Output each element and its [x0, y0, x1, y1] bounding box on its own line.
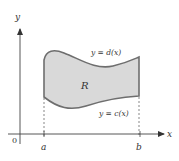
x-axis-label: x	[167, 129, 172, 139]
region-r	[44, 51, 139, 109]
lower-curve-label: y = c(x)	[98, 109, 129, 118]
region-diagram: y x 0 a b R y = d(x) y = c(x)	[0, 0, 179, 161]
region-label: R	[80, 80, 89, 91]
b-label: b	[136, 142, 142, 152]
upper-curve-label: y = d(x)	[90, 48, 121, 57]
origin-label: 0	[12, 136, 17, 145]
a-label: a	[41, 142, 46, 152]
y-axis-label: y	[14, 12, 21, 22]
